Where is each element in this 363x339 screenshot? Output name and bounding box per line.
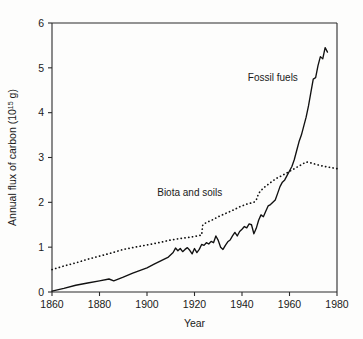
x-axis-title: Year <box>184 317 206 329</box>
x-tick-label: 1980 <box>325 298 349 310</box>
x-tick-label: 1940 <box>230 298 254 310</box>
y-tick-label: 5 <box>38 62 44 74</box>
y-axis-title-group: Annual flux of carbon (1015 g) <box>6 89 18 226</box>
y-tick-label: 0 <box>38 286 44 298</box>
y-tick-label: 4 <box>38 106 44 118</box>
series-annotation-fossil-fuels: Fossil fuels <box>248 72 298 83</box>
series-group <box>52 48 337 291</box>
x-axis-ticks: 1860188019001920194019601980 <box>40 292 349 310</box>
y-axis-title-tail: g) <box>6 89 18 101</box>
x-tick-label: 1900 <box>135 298 159 310</box>
x-tick-label: 1880 <box>88 298 112 310</box>
x-tick-label: 1960 <box>278 298 302 310</box>
series-line-biota-and-soils <box>52 162 337 270</box>
x-tick-label: 1920 <box>183 298 207 310</box>
chart-figure: 0123456 1860188019001920194019601980 Fos… <box>0 0 363 339</box>
y-tick-label: 1 <box>38 241 44 253</box>
y-axis-title-base: Annual flux of carbon (10 <box>6 109 18 226</box>
x-tick-label: 1860 <box>40 298 64 310</box>
series-annotation-biota-and-soils: Biota and soils <box>157 187 222 198</box>
y-tick-label: 3 <box>38 151 44 163</box>
y-tick-label: 6 <box>38 17 44 29</box>
y-axis-ticks: 0123456 <box>38 17 52 298</box>
y-tick-label: 2 <box>38 196 44 208</box>
y-axis-title: Annual flux of carbon (1015 g) <box>6 89 18 226</box>
line-chart: 0123456 1860188019001920194019601980 Fos… <box>0 0 363 339</box>
series-line-fossil-fuels <box>52 48 328 291</box>
y-axis-title-exponent: 15 <box>7 101 14 109</box>
